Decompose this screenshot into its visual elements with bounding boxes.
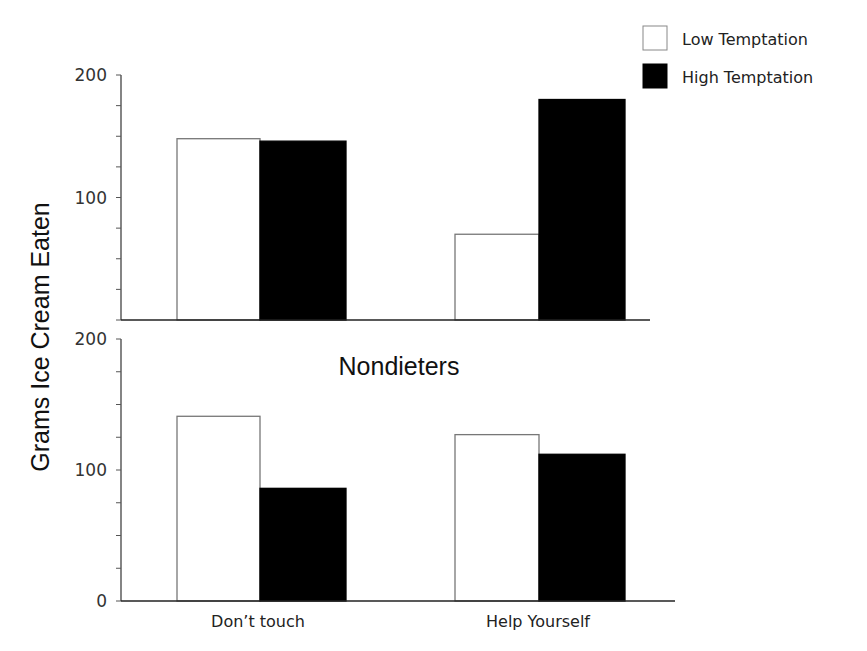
bar-top-1-low xyxy=(455,234,539,320)
legend: Low Temptation High Temptation xyxy=(643,26,813,88)
y-tick-label: 100 xyxy=(75,188,107,208)
x-category-help-yourself: Help Yourself xyxy=(486,612,590,631)
panel-title-nondieters: Nondieters xyxy=(339,352,460,380)
bar-bottom-0-high xyxy=(260,488,346,601)
bar-bottom-0-low xyxy=(177,416,260,601)
y-tick-label: 100 xyxy=(75,460,107,480)
legend-label-low: Low Temptation xyxy=(682,30,808,49)
bar-top-1-high xyxy=(539,100,625,321)
bar-bottom-1-high xyxy=(539,454,625,601)
bar-top-0-high xyxy=(260,141,346,320)
y-axis-label: Grams Ice Cream Eaten xyxy=(26,202,54,472)
legend-swatch-high xyxy=(643,64,667,88)
legend-swatch-low xyxy=(643,26,667,50)
x-category-dont-touch: Don’t touch xyxy=(211,612,305,631)
bar-top-0-low xyxy=(177,139,260,320)
y-tick-label: 200 xyxy=(75,65,107,85)
bar-chart: 1002000100200 Grams Ice Cream Eaten Nond… xyxy=(0,0,867,651)
legend-label-high: High Temptation xyxy=(682,68,813,87)
y-tick-label: 200 xyxy=(75,329,107,349)
bar-bottom-1-low xyxy=(455,435,539,601)
panel-top: 100200 xyxy=(75,65,650,320)
y-tick-label: 0 xyxy=(96,591,107,611)
